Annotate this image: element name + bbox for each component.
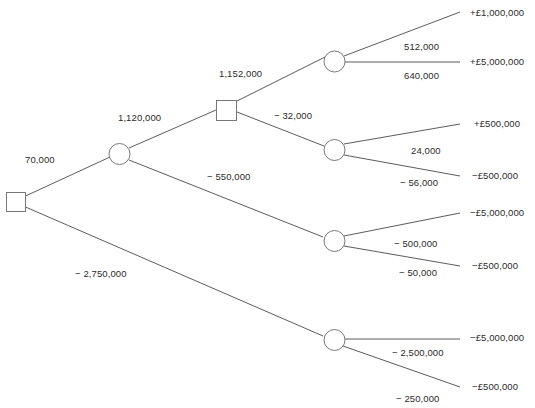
chance-node-d[interactable] (324, 330, 345, 351)
chance-node-a[interactable] (324, 51, 345, 72)
branch-label-chance-c-lower: − 50,000 (399, 268, 437, 278)
edge-chance-b-upper (344, 124, 460, 144)
payoff-label-6: −£500,000 (472, 261, 518, 271)
payoff-label-4: −£500,000 (472, 171, 518, 181)
branch-label-chance-a-lower: 640,000 (404, 71, 439, 81)
payoff-label-5: −£5,000,000 (470, 208, 524, 218)
chance-node-c[interactable] (324, 231, 345, 252)
edge-root-lower (26, 207, 324, 336)
payoff-label-2: +£5,000,000 (470, 57, 524, 67)
branch-label-chance-b-upper: 24,000 (411, 146, 441, 156)
edge-chance-b-lower (344, 155, 460, 176)
branch-label-chance-a-upper: 512,000 (404, 42, 439, 52)
branch-label-root-upper: 70,000 (25, 155, 55, 165)
branch-label-decision2-lower: − 32,000 (274, 111, 312, 121)
chance-node-1[interactable] (109, 144, 130, 165)
chance-node-b[interactable] (324, 140, 345, 161)
edge-chance-a-upper (344, 12, 460, 56)
branch-label-decision2-upper: 1,152,000 (219, 69, 262, 79)
branch-label-chance1-lower: − 550,000 (207, 172, 250, 182)
root-decision-node[interactable] (7, 193, 26, 212)
branch-label-chance-d-lower: − 250,000 (396, 394, 439, 404)
tree-graphics (0, 0, 535, 408)
branch-label-root-lower: − 2,750,000 (75, 269, 127, 279)
payoff-label-3: +£500,000 (474, 119, 520, 129)
decision-tree-diagram: 70,000 − 2,750,000 1,120,000 − 550,000 1… (0, 0, 535, 408)
payoff-label-8: −£500,000 (472, 382, 518, 392)
branch-label-chance-d-upper: − 2,500,000 (392, 348, 444, 358)
branch-label-chance-c-upper: − 500,000 (394, 239, 437, 249)
edge-chance-c-upper (344, 213, 460, 236)
edge-chance-c-lower (344, 246, 460, 266)
branch-label-chance-b-lower: − 56,000 (400, 178, 438, 188)
payoff-label-1: +£1,000,000 (470, 8, 524, 18)
edge-decision2-upper (237, 57, 325, 101)
decision-node-2[interactable] (217, 101, 237, 121)
branch-label-chance1-upper: 1,120,000 (118, 113, 161, 123)
payoff-label-7: −£5,000,000 (470, 333, 524, 343)
